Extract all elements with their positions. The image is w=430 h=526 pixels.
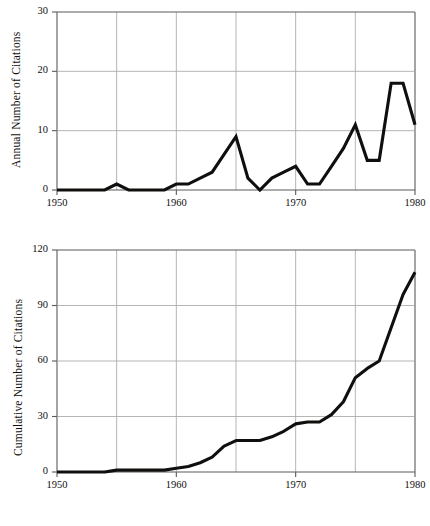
gridlines-cumulative: [57, 250, 415, 472]
citations-figure: Annual Number of Citations 0102030195019…: [0, 0, 430, 526]
ytick-label-0: 0: [18, 465, 48, 476]
ytick-label-30: 30: [18, 410, 48, 421]
cumulative-citations-plot-area: [57, 250, 415, 472]
cumulative-citations-svg: [57, 250, 415, 472]
xtick-label-1980: 1980: [395, 479, 430, 490]
cumulative-citations-chart: Cumulative Number of Citations 030609012…: [0, 232, 430, 526]
axis-ticks-annual: [52, 12, 415, 195]
y-axis-title-annual: Annual Number of Citations: [10, 10, 22, 190]
gridlines-annual: [57, 12, 415, 190]
xtick-label-1950: 1950: [37, 479, 77, 490]
ytick-label-60: 60: [18, 354, 48, 365]
annual-citations-svg: [57, 12, 415, 190]
ytick-label-90: 90: [18, 299, 48, 310]
ytick-label-120: 120: [18, 243, 48, 254]
xtick-label-1960: 1960: [156, 197, 196, 208]
xtick-label-1960: 1960: [156, 479, 196, 490]
xtick-label-1950: 1950: [37, 197, 77, 208]
ytick-label-30: 30: [18, 5, 48, 16]
ytick-label-0: 0: [18, 183, 48, 194]
ytick-label-20: 20: [18, 64, 48, 75]
xtick-label-1980: 1980: [395, 197, 430, 208]
ytick-label-10: 10: [18, 124, 48, 135]
annual-citations-plot-area: [57, 12, 415, 190]
xtick-label-1970: 1970: [276, 479, 316, 490]
annual-citations-chart: Annual Number of Citations 0102030195019…: [0, 0, 430, 222]
xtick-label-1970: 1970: [276, 197, 316, 208]
